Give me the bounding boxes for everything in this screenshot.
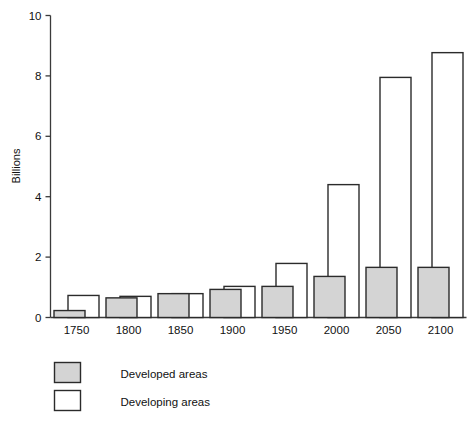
bar-developed-1950 [262, 286, 293, 317]
x-tick-label-1950: 1950 [272, 324, 298, 336]
y-tick-label-6: 6 [35, 130, 41, 142]
bar-developed-2000 [314, 276, 345, 317]
x-tick-label-1900: 1900 [220, 324, 246, 336]
y-axis-title: Billions [10, 148, 22, 183]
chart-legend: Developed areasDeveloping areas [55, 363, 211, 411]
y-tick-label-8: 8 [35, 70, 41, 82]
y-tick-label-0: 0 [35, 312, 41, 324]
bars-layer [54, 53, 463, 318]
bar-developed-1850 [158, 294, 189, 318]
legend-swatch-gray-swatch [55, 363, 81, 383]
x-tick-label-1800: 1800 [116, 324, 142, 336]
y-axis-title-text: Billions [10, 148, 22, 183]
bar-developed-2050 [366, 267, 397, 317]
y-axis: 0246810 [29, 10, 51, 324]
plot-area: 0246810 Billions 17501800185019001950200… [10, 10, 467, 411]
x-tick-label-1850: 1850 [168, 324, 194, 336]
x-tick-labels: 17501800185019001950200020502100 [64, 324, 454, 336]
legend-label-developed-areas: Developed areas [121, 368, 208, 380]
population-bar-chart: 0246810 Billions 17501800185019001950200… [0, 0, 476, 423]
x-tick-label-2050: 2050 [376, 324, 402, 336]
bar-developed-1900 [210, 289, 241, 317]
y-tick-label-4: 4 [35, 191, 42, 203]
y-tick-label-10: 10 [29, 10, 42, 22]
x-tick-label-2000: 2000 [324, 324, 350, 336]
bar-developed-1800 [106, 298, 137, 318]
x-tick-label-2100: 2100 [428, 324, 454, 336]
bar-developed-1750 [54, 311, 85, 318]
chart-canvas: 0246810 Billions 17501800185019001950200… [0, 0, 476, 423]
y-tick-label-2: 2 [35, 251, 41, 263]
x-tick-label-1750: 1750 [64, 324, 90, 336]
legend-label-developing-areas: Developing areas [121, 396, 211, 408]
bar-developed-2100 [418, 267, 449, 317]
legend-swatch-white-swatch [55, 391, 81, 411]
